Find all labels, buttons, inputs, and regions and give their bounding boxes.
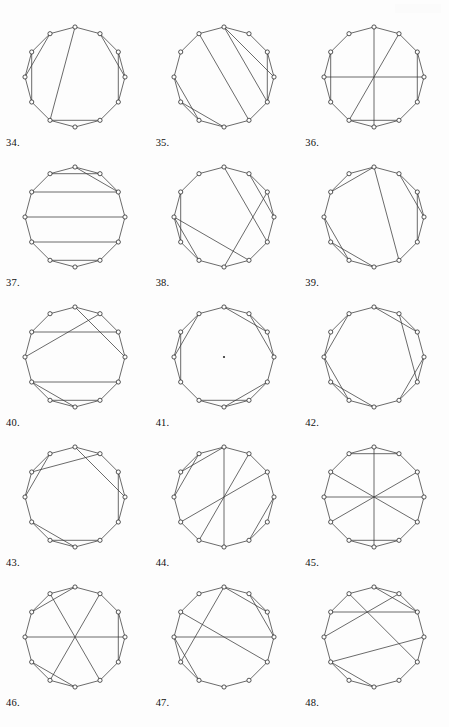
chord-line [75,680,100,687]
chord-line [199,400,224,407]
chord-line [331,167,374,192]
chord-line [349,594,417,662]
chord-diagram-svg [165,578,283,696]
vertex-node [116,470,120,474]
vertex-node [222,265,226,269]
chord-line [331,454,349,472]
vertex-node [179,380,183,384]
chord-line [50,27,75,34]
chord-line [374,447,399,454]
vertex-node [123,355,127,359]
chord-line [331,34,349,52]
chord-line [324,357,331,382]
chord-line [374,587,399,594]
vertex-node [247,538,251,542]
figure-label: 48. [305,698,319,709]
vertex-node [73,685,77,689]
vertex-node [48,118,52,122]
vertex-node [266,660,270,664]
chord-line [417,217,424,242]
chord-line [399,454,417,472]
chord-line [75,587,100,594]
chord-line [324,637,331,662]
chord-line [100,662,118,680]
chord-diagram-svg [16,298,134,416]
chord-line [374,400,399,407]
vertex-node [247,172,251,176]
chord-line [349,260,374,267]
chord-line [224,400,249,407]
vertex-node [179,610,183,614]
chord-diagram-svg [165,18,283,136]
figure-cell: 43. [0,434,150,574]
chord-line [50,307,75,314]
chord-line [50,260,75,267]
chord-line [199,34,249,121]
chord-line [349,27,374,34]
vertex-node [172,215,176,219]
vertex-node [98,678,102,682]
chord-line [75,27,100,34]
vertex-node [29,470,33,474]
vertex-node [29,660,33,664]
chord-line [199,447,224,454]
chord-line [25,52,32,77]
vertex-node [98,452,102,456]
chord-line [349,587,374,594]
chord-diagram-svg [16,18,134,136]
figure-grid: 34.35.36.37.38.39.40.41.42.43.44.45.46.4… [0,14,449,714]
chord-line [75,540,100,547]
chord-line [199,540,224,547]
chord-line [174,332,181,357]
chord-line [324,594,399,637]
chord-line [417,357,424,382]
chord-line [50,120,75,127]
vertex-node [29,190,33,194]
vertex-node [415,470,419,474]
chord-diagram-svg [315,18,433,136]
vertex-node [347,258,351,262]
chord-line [324,314,349,357]
chord-line [224,680,249,687]
vertex-node [73,445,77,449]
chord-line [324,217,349,260]
chord-line [331,594,349,612]
vertex-node [116,190,120,194]
chord-line [181,594,199,612]
chord-line [224,447,249,454]
figure-label: 44. [156,558,170,569]
chord-line [174,637,181,662]
vertex-node [272,75,276,79]
vertex-node [347,172,351,176]
chord-line [268,332,275,357]
chord-line [374,167,399,260]
chord-line [249,662,267,680]
chord-line [399,314,417,382]
chord-line [324,472,331,497]
chord-line [50,400,75,407]
chord-line [174,77,181,102]
vertex-node [29,240,33,244]
chord-line [324,192,331,217]
chord-line [174,217,199,260]
chord-diagram [315,158,433,276]
chord-diagram-svg [165,298,283,416]
chord-line [399,242,417,260]
figure-cell: 48. [299,574,449,714]
chord-line [25,497,32,522]
vertex-node [123,75,127,79]
figure-label: 41. [156,418,170,429]
chord-line [100,242,118,260]
chord-line [174,192,181,217]
vertex-node [329,520,333,524]
vertex-node [48,32,52,36]
chord-line [349,120,374,127]
vertex-node [329,240,333,244]
vertex-node [266,240,270,244]
vertex-node [179,50,183,54]
chord-line [32,242,50,260]
vertex-node [48,678,52,682]
chord-line [349,307,374,314]
chord-line [224,540,249,547]
chord-diagram [165,298,283,416]
